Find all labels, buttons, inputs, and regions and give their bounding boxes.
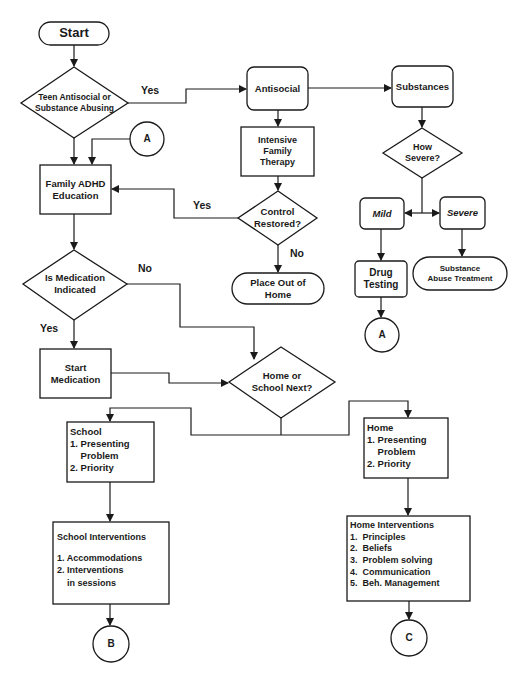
family-adhd-text-1: Family ADHD — [46, 178, 106, 190]
edge-label-control-yes: Yes — [193, 199, 211, 211]
edge-a-family — [92, 139, 130, 164]
intensive-label: Intensive Family Therapy — [241, 127, 314, 176]
place-out-text-1: Place Out of — [250, 277, 305, 289]
antisocial-text: Antisocial — [255, 83, 300, 95]
how-severe-text-2: Severe? — [405, 153, 440, 164]
substance-treatment-text-2: Abuse Treatment — [428, 274, 493, 284]
start-medication-text-1: Start — [65, 362, 87, 374]
home-interventions-item-4: 4. Communication — [350, 567, 431, 579]
control-text-1: Control — [261, 206, 295, 218]
home-text-4: 2. Priority — [367, 458, 411, 470]
home-label: Home 1. Presenting Problem 2. Priority — [367, 422, 447, 476]
school-text-2: 1. Presenting — [70, 438, 130, 450]
drug-testing-label: Drug Testing — [355, 261, 407, 297]
connector-c-text: C — [405, 632, 412, 645]
substance-treatment-label: Substance Abuse Treatment — [413, 257, 507, 290]
school-text-1: School — [70, 426, 102, 438]
school-interventions-title: School Interventions — [57, 531, 146, 544]
school-text-3: Problem — [70, 450, 119, 462]
school-interventions-item-3: in sessions — [57, 577, 116, 590]
how-severe-label: How Severe? — [383, 138, 462, 168]
control-label: Control Restored? — [238, 203, 317, 233]
connector-b-text: B — [107, 638, 114, 651]
start-label: Start — [39, 22, 109, 45]
medication-text-1: Is Medication — [45, 272, 105, 284]
teen-text-1: Teen Antisocial or — [38, 92, 111, 103]
teen-label: Teen Antisocial or Substance Abusing — [21, 88, 128, 118]
edge-label-medication-yes: Yes — [40, 322, 58, 334]
substances-label: Substances — [392, 66, 453, 107]
home-interventions-item-1: 1. Principles — [350, 532, 406, 544]
how-severe-text-1: How — [413, 142, 432, 153]
substance-treatment-text-1: Substance — [440, 264, 480, 274]
place-out-label: Place Out of Home — [232, 273, 324, 304]
substances-text: Substances — [396, 81, 449, 93]
home-text-3: Problem — [367, 446, 416, 458]
mild-label: Mild — [360, 198, 404, 229]
connector-a-bottom-text: A — [378, 329, 385, 342]
school-label: School 1. Presenting Problem 2. Priority — [70, 426, 152, 480]
home-school-text-2: School Next? — [252, 382, 313, 394]
edge-label-teen-yes: Yes — [141, 84, 159, 96]
drug-testing-text-1: Drug — [369, 267, 392, 280]
home-interventions-item-3: 3. Problem solving — [350, 555, 433, 567]
intensive-text-2: Family — [263, 146, 292, 157]
home-interventions-title: Home Interventions — [350, 520, 434, 532]
edge-control-family — [112, 189, 238, 218]
edge-label-medication-no: No — [138, 262, 152, 274]
control-text-2: Restored? — [254, 218, 301, 230]
intensive-text-3: Therapy — [260, 157, 295, 168]
home-text-1: Home — [367, 422, 393, 434]
home-school-label: Home or School Next? — [229, 367, 335, 397]
drug-testing-text-2: Testing — [364, 279, 399, 292]
teen-text-2: Substance Abusing — [35, 103, 114, 114]
intensive-text-1: Intensive — [258, 135, 297, 146]
home-interventions-item-2: 2. Beliefs — [350, 543, 392, 555]
mild-text: Mild — [373, 208, 392, 220]
school-interventions-label: School Interventions 1. Accommodations 2… — [57, 531, 167, 601]
connector-c-label: C — [391, 620, 427, 656]
medication-text-2: Indicated — [54, 284, 96, 296]
start-text: Start — [59, 25, 89, 41]
family-adhd-label: Family ADHD Education — [40, 165, 111, 214]
edge-label-control-no: No — [290, 247, 304, 259]
school-interventions-item-2: 2. Interventions — [57, 564, 124, 577]
connector-b-label: B — [93, 626, 129, 662]
place-out-text-2: Home — [265, 289, 291, 301]
medication-label: Is Medication Indicated — [23, 269, 127, 299]
severe-label: Severe — [440, 197, 485, 229]
home-text-2: 1. Presenting — [367, 434, 427, 446]
family-adhd-text-2: Education — [53, 190, 99, 202]
edge-startmed-homeschool — [111, 373, 228, 383]
severe-text: Severe — [447, 207, 478, 219]
home-school-text-1: Home or — [263, 370, 302, 382]
school-interventions-item-1: 1. Accommodations — [57, 552, 142, 565]
school-text-4: 2. Priority — [70, 462, 114, 474]
connector-a-bottom-label: A — [365, 318, 399, 352]
start-medication-text-2: Medication — [51, 374, 101, 386]
connector-a-top-label: A — [130, 122, 164, 156]
home-interventions-label: Home Interventions 1. Principles 2. Beli… — [350, 520, 468, 600]
antisocial-label: Antisocial — [247, 67, 308, 110]
connector-a-top-text: A — [143, 133, 150, 146]
home-interventions-item-5: 5. Beh. Management — [350, 578, 440, 590]
start-medication-label: Start Medication — [40, 349, 111, 398]
